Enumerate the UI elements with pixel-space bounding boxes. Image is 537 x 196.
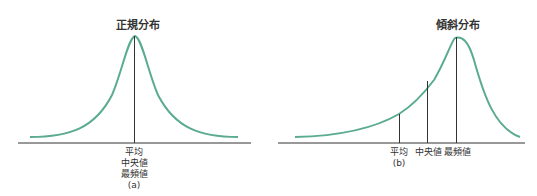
label-mode-b: 最頻値 [439,147,475,158]
label-mean-a: 平均 [114,147,154,158]
title-normal-distribution: 正規分布 [116,16,160,32]
caption-b: (b) [384,158,414,169]
label-mode-a: 最頻値 [114,169,154,180]
title-skewed-distribution: 傾斜分布 [436,16,480,32]
caption-a: (a) [114,180,154,191]
skewed-curve [295,38,520,137]
label-median-a: 中央値 [114,158,154,169]
